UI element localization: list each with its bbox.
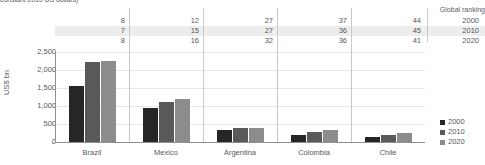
- x-axis-label: Chile: [351, 148, 425, 157]
- bar: [217, 130, 232, 142]
- bar: [233, 128, 248, 142]
- legend-swatch: [440, 130, 445, 135]
- y-axis-tick-label: 1,500: [37, 84, 56, 91]
- ranking-cell: 37: [277, 16, 351, 26]
- ranking-row-year: 2010: [429, 26, 483, 36]
- ranking-cell: 27: [203, 16, 277, 26]
- bar: [175, 99, 190, 142]
- ranking-row-2020: 8163236412020: [55, 36, 485, 46]
- ranking-row-2000: 8122737442000: [55, 16, 485, 26]
- bar: [143, 108, 158, 142]
- bar: [85, 62, 100, 142]
- ranking-cell: 36: [277, 36, 351, 46]
- ranking-row-year: 2020: [429, 36, 483, 46]
- ranking-cell: 41: [351, 36, 425, 46]
- ranking-cell: 12: [129, 16, 203, 26]
- y-axis-line: [55, 52, 56, 143]
- figure-caption: constant 2010 US dollars): [0, 0, 78, 3]
- x-axis-label: Colombia: [277, 148, 351, 157]
- legend-swatch: [440, 120, 445, 125]
- bar-group: [69, 52, 116, 142]
- y-axis-label: US$ bn: [2, 70, 11, 95]
- ranking-row-year: 2000: [429, 16, 483, 26]
- ranking-cell: 7: [55, 26, 129, 36]
- bar: [381, 135, 396, 142]
- global-ranking-header: Global ranking: [427, 6, 485, 13]
- bar: [307, 132, 322, 142]
- ranking-cell: 32: [203, 36, 277, 46]
- ranking-cell: 36: [277, 26, 351, 36]
- bar: [365, 137, 380, 142]
- plot-area: [55, 52, 425, 142]
- ranking-cell: 15: [129, 26, 203, 36]
- legend-label: 2000: [448, 118, 465, 126]
- column-separator: [203, 8, 204, 142]
- bar-group: [217, 52, 264, 142]
- bar-group: [291, 52, 338, 142]
- bar: [291, 135, 306, 142]
- bar-group: [143, 52, 190, 142]
- legend-label: 2010: [448, 128, 465, 136]
- y-axis-tick-label: 2,500: [37, 48, 56, 55]
- column-separator: [427, 8, 428, 42]
- legend-label: 2020: [448, 138, 465, 146]
- y-axis-tick-label: 1,000: [37, 102, 56, 109]
- bar: [323, 130, 338, 142]
- bar: [69, 86, 84, 142]
- bar-group: [365, 52, 412, 142]
- column-separator: [129, 8, 130, 142]
- ranking-cell: 8: [55, 16, 129, 26]
- column-separator: [277, 8, 278, 142]
- x-axis-label: Brazil: [55, 148, 129, 157]
- ranking-cell: 27: [203, 26, 277, 36]
- bar: [397, 133, 412, 142]
- x-axis-line: [55, 142, 425, 143]
- ranking-cell: 16: [129, 36, 203, 46]
- ranking-row-2010: 7152736452010: [55, 26, 485, 36]
- legend-swatch: [440, 140, 445, 145]
- bar: [101, 61, 116, 142]
- global-ranking-table: Global ranking 8122737442000 71527364520…: [55, 6, 485, 46]
- ranking-cell: 8: [55, 36, 129, 46]
- x-axis-label: Argentina: [203, 148, 277, 157]
- ranking-cell: 45: [351, 26, 425, 36]
- bar: [159, 102, 174, 142]
- column-separator: [351, 8, 352, 142]
- ranking-cell: 44: [351, 16, 425, 26]
- bar: [249, 128, 264, 142]
- y-axis-tick-label: 2,000: [37, 66, 56, 73]
- x-axis-label: Mexico: [129, 148, 203, 157]
- chart-figure: constant 2010 US dollars) Global ranking…: [0, 0, 485, 165]
